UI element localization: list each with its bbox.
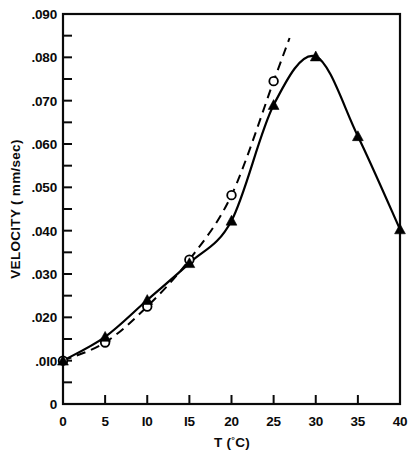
x-tick-label: 40 bbox=[393, 414, 408, 429]
y-tick-label: 0 bbox=[50, 397, 57, 412]
x-tick-label: 5 bbox=[101, 414, 109, 429]
x-tick-label: 20 bbox=[224, 414, 239, 429]
data-point-filled-triangle bbox=[226, 215, 237, 225]
x-tick-label: 0 bbox=[59, 414, 66, 429]
y-axis-tick-labels: 0.0I0.020.030.040.050.060.070.080.090 bbox=[32, 7, 57, 412]
data-point-open-circle bbox=[269, 77, 278, 86]
data-point-filled-triangle bbox=[268, 100, 279, 110]
x-axis-title: T (°C) bbox=[214, 435, 250, 450]
x-axis-tick-labels: 05I0I52025303540 bbox=[59, 414, 407, 429]
x-tick-label: I0 bbox=[142, 414, 153, 429]
plot-frame bbox=[63, 14, 400, 404]
y-tick-label: .070 bbox=[32, 94, 57, 109]
y-axis-ticks bbox=[63, 14, 72, 361]
data-point-filled-triangle bbox=[352, 131, 363, 141]
y-tick-label: .090 bbox=[32, 7, 57, 22]
y-tick-label: .020 bbox=[32, 310, 57, 325]
markers-open-circle bbox=[59, 77, 278, 365]
y-tick-label: .050 bbox=[32, 180, 57, 195]
x-tick-label: 25 bbox=[266, 414, 281, 429]
y-axis-title: VELOCITY ( mm/sec) bbox=[8, 139, 23, 278]
velocity-vs-temperature-chart: 0.0I0.020.030.040.050.060.070.080.090 05… bbox=[0, 0, 420, 460]
x-axis-ticks bbox=[105, 395, 358, 404]
y-tick-label: .030 bbox=[32, 267, 57, 282]
x-axis-title-unit: C) bbox=[235, 435, 250, 450]
y-axis-minor-ticks bbox=[63, 36, 72, 383]
x-tick-label: 35 bbox=[351, 414, 366, 429]
x-tick-label: I5 bbox=[184, 414, 196, 429]
x-tick-label: 30 bbox=[308, 414, 323, 429]
y-tick-label: .060 bbox=[32, 137, 57, 152]
dashed-curve bbox=[63, 38, 290, 361]
axes-border bbox=[63, 14, 400, 404]
figure-container: 0.0I0.020.030.040.050.060.070.080.090 05… bbox=[0, 0, 420, 460]
y-tick-label: .0I0 bbox=[35, 354, 57, 369]
data-point-open-circle bbox=[227, 191, 236, 200]
y-tick-label: .080 bbox=[32, 50, 57, 65]
data-point-filled-triangle bbox=[395, 224, 406, 234]
series-solid-triangles bbox=[63, 56, 400, 361]
series-dashed-open-circles bbox=[63, 38, 290, 361]
x-axis-title-text: T ( bbox=[214, 435, 232, 450]
markers-filled-triangle bbox=[58, 51, 406, 365]
y-tick-label: .040 bbox=[32, 224, 57, 239]
solid-curve bbox=[63, 56, 400, 361]
